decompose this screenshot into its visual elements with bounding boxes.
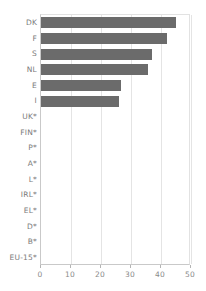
x-axis-tick-label: 10 [65,270,75,279]
bar-row [41,188,189,204]
bar-series [41,15,189,264]
y-axis-category-labels: DKFSNLEIUK*FIN*P*A*L*IRL*EL*D*B*EU-15* [0,14,37,265]
bar-row [41,250,189,266]
y-axis-label: UK* [0,111,37,120]
bar-row [41,78,189,94]
plot-area [40,14,190,265]
x-axis-tick [190,265,191,268]
bar [41,49,152,60]
bar-row [41,156,189,172]
y-axis-label: F [0,33,37,42]
bar [41,17,176,28]
bar-chart: DKFSNLEIUK*FIN*P*A*L*IRL*EL*D*B*EU-15* 0… [0,0,206,291]
bar [41,80,121,91]
y-axis-label: E [0,80,37,89]
y-axis-label: IRL* [0,190,37,199]
bar-row [41,235,189,251]
bar-row [41,62,189,78]
bar-row [41,141,189,157]
x-axis-tick [70,265,71,268]
x-axis-tick-label: 0 [38,270,43,279]
y-axis-label: EU-15* [0,253,37,262]
bar-row [41,203,189,219]
y-axis-label: I [0,96,37,105]
y-axis-label: P* [0,143,37,152]
bar-row [41,15,189,31]
y-axis-label: B* [0,237,37,246]
y-axis-label: D* [0,221,37,230]
y-axis-label: S [0,49,37,58]
bar [41,96,119,107]
y-axis-label: DK [0,17,37,26]
x-axis-tick-label: 50 [185,270,195,279]
bar [41,33,167,44]
x-axis-tick-label: 40 [155,270,165,279]
y-axis-label: NL [0,64,37,73]
gridline [191,15,192,264]
y-axis-label: A* [0,159,37,168]
bar-row [41,46,189,62]
y-axis-label: FIN* [0,127,37,136]
bar-row [41,109,189,125]
x-axis: 01020304050 [40,265,190,287]
y-axis-label: L* [0,174,37,183]
bar-row [41,31,189,47]
bar-row [41,125,189,141]
x-axis-tick [40,265,41,268]
x-axis-tick [160,265,161,268]
x-axis-tick-label: 20 [95,270,105,279]
bar-row [41,93,189,109]
x-axis-tick [100,265,101,268]
x-axis-tick-label: 30 [125,270,135,279]
bar [41,64,148,75]
y-axis-label: EL* [0,206,37,215]
bar-row [41,172,189,188]
bar-row [41,219,189,235]
x-axis-tick [130,265,131,268]
